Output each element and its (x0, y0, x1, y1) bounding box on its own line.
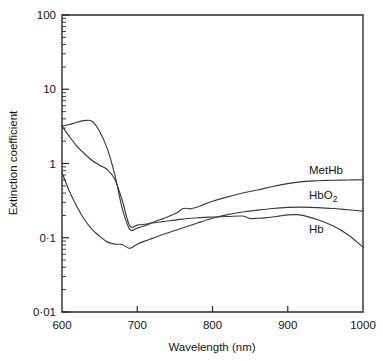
x-axis-title: Wavelength (nm) (168, 341, 255, 353)
series-label-methb: MetHb (309, 164, 343, 176)
series-label-hbo2-main: HbO (309, 189, 333, 201)
x-tick-label: 800 (203, 319, 222, 331)
extinction-coefficient-chart: 0·010·1110100 6007008009001000 Wavelengt… (0, 0, 383, 361)
x-tick-label: 1000 (350, 319, 376, 331)
series-label-hbo2-sub: 2 (333, 194, 338, 204)
figure-container: 0·010·1110100 6007008009001000 Wavelengt… (0, 0, 383, 361)
y-tick-label: 10 (43, 83, 56, 95)
x-tick-label: 900 (278, 319, 297, 331)
y-tick-label: 1 (50, 158, 56, 170)
y-tick-label: 100 (37, 9, 56, 21)
x-tick-label: 700 (128, 319, 147, 331)
y-tick-label: 0·01 (33, 306, 56, 318)
series-label-hb: Hb (309, 223, 324, 235)
x-tick-label: 600 (52, 319, 71, 331)
y-axis-title: Extinction coefficient (7, 110, 19, 215)
y-tick-label: 0·1 (39, 232, 56, 244)
